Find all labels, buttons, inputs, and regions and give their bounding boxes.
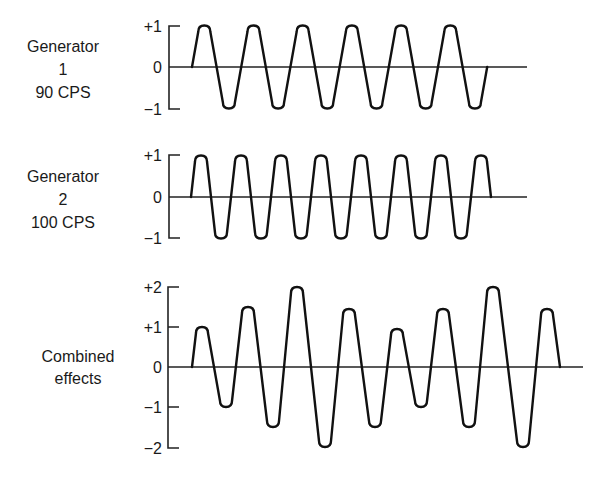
y-tick-label: 0 (153, 59, 162, 76)
y-tick-label: +2 (144, 279, 162, 296)
y-tick-label: −2 (144, 440, 162, 457)
panel-label-line: Generator (27, 38, 100, 55)
panel-generator-2: Generator 2 100 CPS +1 0 −1 (27, 147, 527, 247)
y-tick-label: +1 (144, 18, 162, 35)
panel-label-line: Generator (27, 168, 100, 185)
y-tick-label: −1 (144, 230, 162, 247)
panel-label-line: 100 CPS (31, 214, 95, 231)
y-tick-label: 0 (153, 359, 162, 376)
panel-label-line: 2 (59, 191, 68, 208)
y-tick-label: −1 (144, 101, 162, 118)
panel-combined-effects: Combined effects +2 +1 0 −1 −2 (42, 279, 583, 457)
y-tick-label: +1 (144, 147, 162, 164)
y-tick-label: −1 (144, 399, 162, 416)
panel-label-line: Combined (42, 348, 115, 365)
y-tick-label: +1 (144, 319, 162, 336)
y-tick-label: 0 (153, 189, 162, 206)
beat-frequency-figure: Generator 1 90 CPS +1 0 −1 Generator 2 1… (0, 0, 595, 480)
panel-label-line: 90 CPS (35, 84, 90, 101)
panel-label-line: effects (55, 370, 102, 387)
panel-label-line: 1 (59, 61, 68, 78)
panel-generator-1: Generator 1 90 CPS +1 0 −1 (27, 18, 527, 118)
